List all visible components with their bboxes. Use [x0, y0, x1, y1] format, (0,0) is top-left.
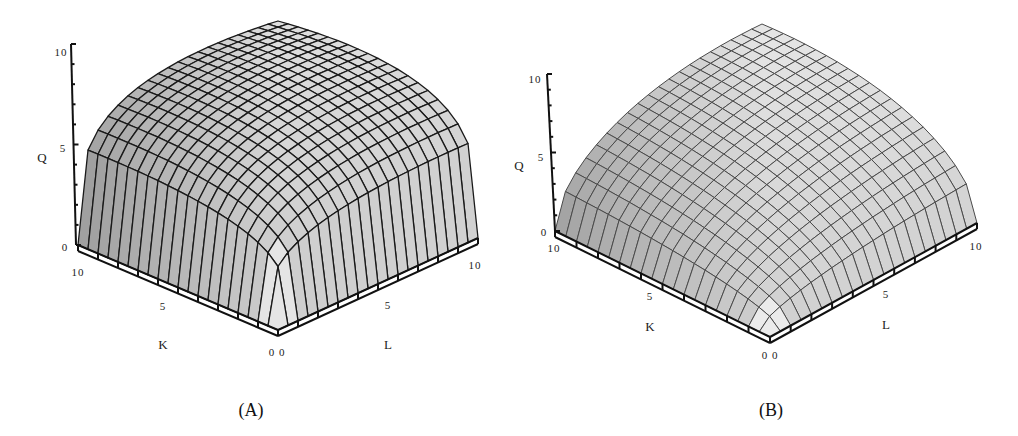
surface-mesh	[78, 21, 478, 330]
caption-a: (A)	[239, 400, 264, 421]
q-axis-title-a: Q	[37, 150, 46, 166]
k-axis-title-a: K	[158, 337, 167, 353]
l-axis-title-a: L	[384, 337, 392, 353]
origin-label-b: 0 0	[762, 349, 779, 361]
surface-mesh	[555, 24, 977, 337]
k-tick-10-a: 10	[72, 266, 85, 278]
q-tick-10-a: 10	[55, 46, 68, 58]
q-axis-title-b: Q	[514, 158, 523, 174]
l-tick-10-b: 10	[970, 240, 983, 252]
surface-plot-b	[509, 0, 1018, 436]
chart-panel-a: 10 5 0 Q 10 5 K 0 0 5 10 L (A)	[0, 0, 509, 436]
q-tick-10-b: 10	[529, 73, 542, 85]
q-axis	[71, 44, 81, 245]
q-axis	[547, 74, 560, 231]
k-tick-10-b: 10	[548, 242, 561, 254]
origin-label-a: 0 0	[269, 346, 286, 358]
chart-panel-b: 10 5 0 Q 10 5 K 0 0 5 10 L (B)	[509, 0, 1018, 436]
caption-b: (B)	[759, 400, 783, 421]
k-tick-5-a: 5	[160, 300, 167, 312]
l-axis-title-b: L	[882, 317, 890, 333]
q-tick-0-b: 0	[541, 226, 548, 238]
l-tick-5-a: 5	[385, 299, 392, 311]
k-tick-5-b: 5	[647, 290, 654, 302]
surface-plot-a	[0, 0, 509, 436]
q-tick-0-a: 0	[62, 241, 69, 253]
q-tick-5-a: 5	[60, 142, 67, 154]
l-tick-10-a: 10	[469, 259, 482, 271]
l-tick-5-b: 5	[883, 288, 890, 300]
q-tick-5-b: 5	[538, 151, 545, 163]
k-axis-title-b: K	[645, 319, 654, 335]
